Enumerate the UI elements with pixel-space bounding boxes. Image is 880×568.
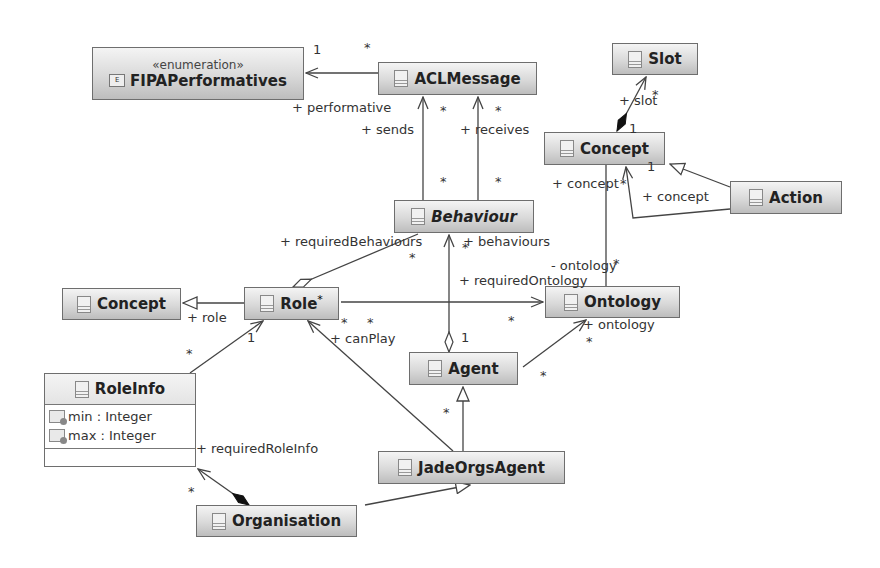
attribute-compartment: min : Integer max : Integer [45, 405, 195, 449]
label-ontology-private: - ontology [551, 258, 617, 273]
class-name: Slot [648, 50, 681, 68]
class-name: Concept [97, 295, 166, 313]
label-required-ontology: + requiredOntology [459, 273, 588, 288]
class-icon [260, 295, 274, 312]
class-name: Role [280, 295, 317, 313]
mult-ontology-priv-many: * [613, 256, 620, 271]
class-icon [560, 140, 574, 157]
label-concept-1: + concept [552, 176, 619, 191]
class-roleinfo[interactable]: RoleInfo min : Integer max : Integer [44, 373, 196, 467]
class-name: Action [769, 189, 823, 207]
stereotype-label: «enumeration» [152, 58, 244, 72]
class-aclmessage[interactable]: ACLMessage [378, 62, 537, 95]
mult-sends-top: * [440, 103, 447, 118]
class-icon [411, 208, 425, 225]
attribute-icon [49, 429, 65, 442]
class-icon [749, 189, 763, 206]
uml-class-diagram: «enumeration» E FIPAPerformatives ACLMes… [0, 0, 880, 568]
class-name: FIPAPerformatives [130, 72, 287, 90]
class-name: Agent [448, 360, 498, 378]
mult-receives-top: * [495, 103, 502, 118]
class-name: Organisation [232, 512, 341, 530]
mult-behaviours-many: * [462, 240, 469, 255]
class-icon [398, 459, 412, 476]
mult-receives-bottom: * [495, 174, 502, 189]
class-slot[interactable]: Slot [612, 43, 698, 75]
class-ontology[interactable]: Ontology [545, 286, 680, 318]
mult-sends-bottom: * [440, 174, 447, 189]
class-icon [75, 381, 89, 398]
class-name: Ontology [584, 293, 661, 311]
label-role: + role [187, 310, 227, 325]
class-icon [428, 360, 442, 377]
class-icon [628, 51, 642, 68]
role-marker: * [317, 293, 323, 306]
label-receives: + receives [460, 122, 529, 137]
class-name: Concept [580, 140, 649, 158]
mult-concept-1: 1 [629, 121, 637, 136]
mult-concept-many: * [620, 176, 627, 191]
label-required-roleinfo: + requiredRoleInfo [196, 441, 318, 456]
mult-canplay-many: * [443, 405, 450, 420]
label-sends: + sends [361, 122, 414, 137]
operation-compartment [45, 449, 195, 466]
class-icon [564, 294, 578, 311]
class-action[interactable]: Action [730, 181, 842, 214]
mult-slot-many: * [652, 87, 659, 102]
attribute-text: min : Integer [68, 409, 152, 424]
class-agent[interactable]: Agent [409, 352, 518, 385]
mult-ontology-many: * [586, 334, 593, 349]
class-name: JadeOrgsAgent [418, 459, 545, 477]
attribute-text: max : Integer [68, 428, 156, 443]
mult-acl-many: * [364, 40, 371, 55]
class-name: ACLMessage [414, 70, 520, 88]
mult-concept-action-1: 1 [647, 159, 655, 174]
label-concept-2: + concept [642, 189, 709, 204]
label-canplay: + canPlay [330, 331, 396, 346]
attribute-icon [49, 410, 65, 423]
mult-role-1: 1 [247, 330, 255, 345]
class-icon [212, 513, 226, 530]
class-organisation[interactable]: Organisation [196, 505, 357, 537]
class-fipaperformatives[interactable]: «enumeration» E FIPAPerformatives [92, 47, 304, 100]
class-header: RoleInfo [45, 374, 195, 405]
class-name: RoleInfo [95, 380, 165, 398]
mult-agent-1: 1 [461, 330, 469, 345]
mult-role-many-2: * [367, 315, 374, 330]
label-behaviours: + behaviours [463, 234, 550, 249]
class-icon [394, 70, 408, 87]
class-jadeorgsagent[interactable]: JadeOrgsAgent [378, 451, 565, 484]
mult-reqonto-many: * [508, 313, 515, 328]
enumeration-icon: E [109, 74, 125, 87]
attribute-min[interactable]: min : Integer [49, 407, 195, 426]
attribute-max[interactable]: max : Integer [49, 426, 195, 445]
mult-roleinfo-many: * [186, 346, 193, 361]
mult-reqroleinfo-many: * [188, 484, 195, 499]
class-name: Behaviour [431, 208, 517, 226]
class-role[interactable]: Role * [244, 287, 339, 320]
mult-role-many-1: * [341, 315, 348, 330]
class-behaviour[interactable]: Behaviour [394, 200, 534, 233]
mult-agent-onto-many: * [540, 368, 547, 383]
label-required-behaviours: + requiredBehaviours [280, 234, 422, 249]
label-performative: + performative [292, 100, 391, 115]
mult-reqbeh-many: * [409, 250, 416, 265]
class-concept-left[interactable]: Concept [62, 288, 181, 320]
label-ontology: + ontology [583, 317, 655, 332]
mult-fipa-1: 1 [313, 42, 321, 57]
class-icon [77, 296, 91, 313]
